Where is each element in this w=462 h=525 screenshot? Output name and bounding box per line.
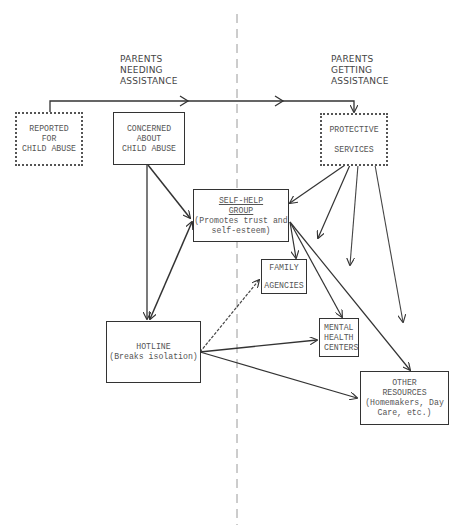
node-text: HEALTH	[324, 333, 353, 343]
node-text: CONCERNED	[127, 124, 171, 134]
node-text: OTHER	[392, 378, 417, 388]
node-text: CENTERS	[324, 343, 358, 353]
heading-parents-getting-assistance: Parents Getting Assistance	[331, 54, 389, 87]
node-text: FAMILY	[269, 263, 298, 273]
node-text: MENTAL	[324, 323, 353, 333]
node-hotline: HOTLINE (Breaks isolation)	[106, 321, 201, 383]
node-text: RESOURCES	[382, 388, 426, 398]
top-flow-arrow	[50, 96, 354, 113]
diagram-connectors	[0, 0, 462, 525]
node-text: (Promotes trust and	[194, 216, 287, 226]
node-text: FOR	[42, 134, 57, 144]
node-text: CHILD ABUSE	[22, 144, 76, 154]
heading-line: Assistance	[331, 76, 389, 86]
node-text: self-esteem)	[212, 226, 271, 236]
node-title: GROUP	[229, 206, 254, 216]
heading-line: Assistance	[120, 76, 178, 86]
heading-line: Parents	[331, 54, 373, 64]
node-text: AGENCIES	[264, 281, 303, 291]
node-other-resources: OTHER RESOURCES (Homemakers, Day Care, e…	[360, 371, 449, 425]
node-text: (Homemakers, Day	[365, 398, 444, 408]
node-text: Care, etc.)	[377, 408, 431, 418]
node-text: (Breaks isolation)	[109, 352, 197, 362]
node-mental-health-centers: MENTAL HEALTH CENTERS	[319, 318, 359, 357]
heading-line: Getting	[331, 65, 372, 75]
node-text: ABOUT	[137, 134, 162, 144]
node-self-help-group: SELF-HELP GROUP (Promotes trust and self…	[193, 189, 289, 242]
heading-parents-needing-assistance: Parents Needing Assistance	[120, 54, 178, 87]
heading-line: Needing	[120, 65, 163, 75]
node-text: PROTECTIVE	[329, 125, 378, 135]
node-family-agencies: FAMILY AGENCIES	[261, 259, 307, 294]
node-title: SELF-HELP	[219, 196, 263, 206]
node-text: HOTLINE	[136, 342, 170, 352]
node-reported-for-child-abuse: REPORTED FOR CHILD ABUSE	[15, 112, 83, 166]
heading-line: Parents	[120, 54, 162, 64]
node-text: CHILD ABUSE	[122, 144, 176, 154]
node-text: SERVICES	[334, 145, 373, 155]
node-protective-services: PROTECTIVE SERVICES	[320, 113, 388, 166]
node-concerned-about-child-abuse: CONCERNED ABOUT CHILD ABUSE	[113, 112, 185, 165]
node-text: REPORTED	[29, 124, 68, 134]
